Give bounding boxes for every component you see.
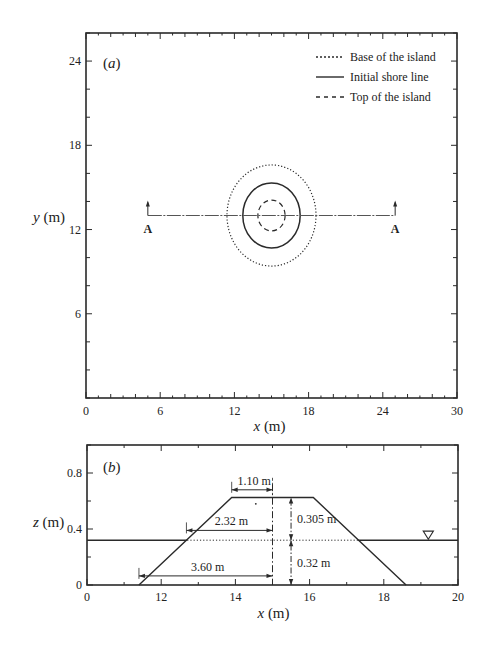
dimension-label: 2.32 m [215, 514, 249, 528]
legend-label: Top of the island [350, 90, 431, 104]
x-tick-label: 18 [303, 404, 315, 418]
x-tick-label: 20 [452, 590, 464, 604]
y-tick-label: 6 [75, 307, 81, 321]
x-axis-label: x (m) [252, 418, 285, 435]
arrow-right-icon [267, 488, 273, 492]
panel-b-cross-section: 0121416182000.40.8x (m)z (m)(b)1.10 m2.3… [32, 445, 464, 622]
y-axis-label: y (m) [31, 209, 65, 226]
dimension-label: 1.10 m [237, 474, 271, 488]
arrow-right-icon [267, 528, 273, 532]
legend-label: Initial shore line [350, 70, 429, 84]
speck [255, 503, 257, 505]
water-level-triangle-icon [423, 531, 433, 539]
y-tick-label: 0.8 [67, 466, 82, 480]
dimension-label: 0.32 m [297, 556, 331, 570]
legend-label: Base of the island [350, 50, 436, 64]
x-tick-label: 12 [228, 404, 240, 418]
arrow-up-icon [289, 498, 293, 504]
z-axis-label: z (m) [32, 514, 64, 531]
y-tick-label: 18 [69, 138, 81, 152]
arrow-up-icon [289, 540, 293, 546]
arrow-left-icon [232, 488, 238, 492]
panel-label-a: (a) [103, 55, 121, 72]
section-label: A [143, 222, 152, 236]
arrow-down-icon [289, 534, 293, 540]
panel-label-b: (b) [103, 459, 121, 476]
dimension-label: 0.305 m [297, 512, 337, 526]
arrow-up-icon [146, 201, 150, 207]
section-label: A [391, 222, 400, 236]
x-tick-label: 0 [83, 404, 89, 418]
arrow-left-icon [186, 528, 192, 532]
x-tick-label: 12 [155, 590, 167, 604]
panel-a-plan-view: 06121824306121824x (m)y (m)(a)AABase of … [31, 33, 463, 435]
x-tick-label: 24 [377, 404, 389, 418]
x-tick-label: 0 [84, 590, 90, 604]
arrow-down-icon [289, 579, 293, 585]
y-tick-label: 0 [76, 578, 82, 592]
x-tick-label: 18 [378, 590, 390, 604]
x-tick-label: 16 [304, 590, 316, 604]
x-axis-label: x (m) [256, 605, 289, 622]
x-tick-label: 30 [451, 404, 463, 418]
dimension-label: 3.60 m [191, 560, 225, 574]
y-tick-label: 0.4 [67, 522, 82, 536]
figure: 06121824306121824x (m)y (m)(a)AABase of … [0, 0, 492, 664]
arrow-left-icon [139, 574, 145, 578]
y-tick-label: 12 [69, 223, 81, 237]
x-tick-label: 14 [229, 590, 241, 604]
x-tick-label: 6 [157, 404, 163, 418]
arrow-up-icon [393, 201, 397, 207]
arrow-right-icon [267, 574, 273, 578]
y-tick-label: 24 [69, 54, 81, 68]
